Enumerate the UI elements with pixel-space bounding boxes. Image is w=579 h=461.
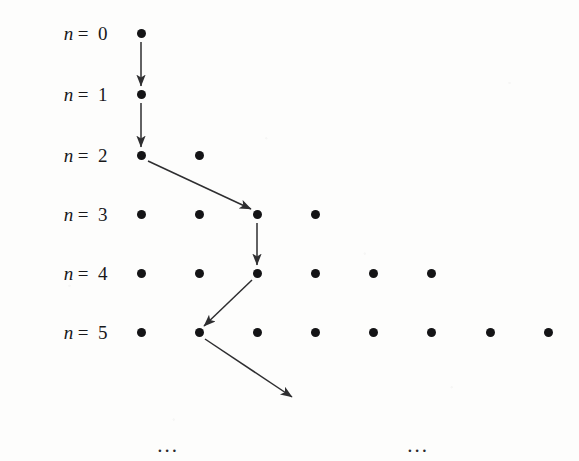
lattice-dot xyxy=(137,29,146,38)
lattice-dot xyxy=(486,328,495,337)
row-label-variable: n xyxy=(64,322,74,343)
lattice-dot xyxy=(253,328,262,337)
lattice-dot xyxy=(311,269,320,278)
row-label-variable: n xyxy=(64,204,74,225)
row-label-value: 5 xyxy=(92,322,108,343)
lattice-dot xyxy=(369,328,378,337)
row-label-n-0: n=0 xyxy=(0,24,108,43)
row-label-variable: n xyxy=(64,23,74,44)
paper-texture xyxy=(0,0,579,461)
lattice-dot xyxy=(369,269,378,278)
row-label-variable: n xyxy=(64,263,74,284)
lattice-dot xyxy=(311,210,320,219)
row-label-n-3: n=3 xyxy=(0,205,108,224)
row-label-n-5: n=5 xyxy=(0,323,108,342)
lattice-path-figure: n=0n=1n=2n=3n=4n=5 ...... xyxy=(0,0,579,461)
row-label-equals: = xyxy=(74,263,92,284)
row-label-equals: = xyxy=(74,84,92,105)
lattice-dot xyxy=(311,328,320,337)
row-label-equals: = xyxy=(74,204,92,225)
row-label-equals: = xyxy=(74,145,92,166)
row-label-n-4: n=4 xyxy=(0,264,108,283)
lattice-dot xyxy=(195,151,204,160)
lattice-dot xyxy=(253,269,262,278)
row-label-value: 3 xyxy=(92,204,108,225)
lattice-dot xyxy=(137,210,146,219)
lattice-dot xyxy=(544,328,553,337)
lattice-dot xyxy=(137,328,146,337)
lattice-dot xyxy=(137,90,146,99)
lattice-dot xyxy=(427,269,436,278)
row-label-value: 4 xyxy=(92,263,108,284)
lattice-dot xyxy=(137,151,146,160)
ellipsis-right: ... xyxy=(407,435,429,456)
row-label-n-1: n=1 xyxy=(0,85,108,104)
row-label-variable: n xyxy=(64,84,74,105)
arrow-n5-continuing xyxy=(205,339,292,397)
row-label-value: 1 xyxy=(92,84,108,105)
row-label-variable: n xyxy=(64,145,74,166)
lattice-dot xyxy=(427,328,436,337)
row-label-equals: = xyxy=(74,322,92,343)
lattice-dot xyxy=(253,210,262,219)
row-label-n-2: n=2 xyxy=(0,146,108,165)
row-label-equals: = xyxy=(74,23,92,44)
ellipsis-left: ... xyxy=(157,435,179,456)
lattice-dot xyxy=(195,328,204,337)
lattice-dot xyxy=(195,269,204,278)
row-label-value: 0 xyxy=(92,23,108,44)
path-arrows-layer xyxy=(0,0,579,461)
lattice-dot xyxy=(137,269,146,278)
lattice-dot xyxy=(195,210,204,219)
arrow-n2-to-n3 xyxy=(148,161,251,209)
arrow-n4-to-n5 xyxy=(204,280,252,326)
row-label-value: 2 xyxy=(92,145,108,166)
